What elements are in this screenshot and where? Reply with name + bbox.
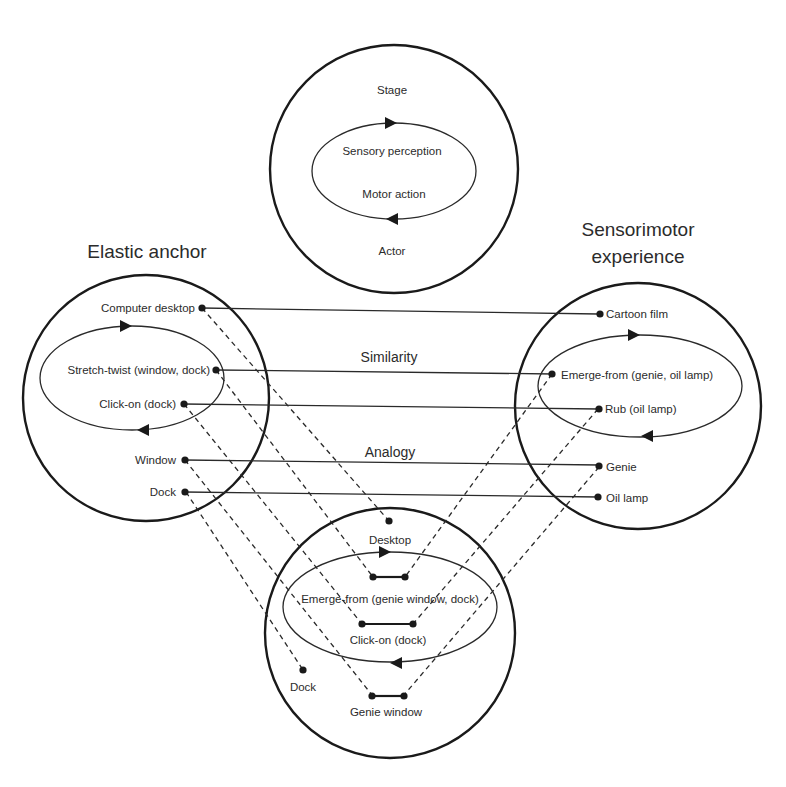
sensory-perception-label: Sensory perception (342, 145, 441, 157)
dash-dock-dock (186, 492, 303, 670)
dot-desktop (385, 517, 392, 524)
stretch-twist-label: Stretch-twist (window, dock) (67, 364, 210, 376)
bottom-circle-group: Desktop Emerge-from (genie window, dock)… (265, 508, 515, 758)
dot-click-on-right (409, 620, 416, 627)
dot-window (181, 456, 188, 463)
dot-genie-window-right (400, 692, 407, 699)
dot-cartoon-film (596, 310, 603, 317)
dot-emerge-from-genie (548, 370, 555, 377)
click-on-dock-blend-label: Click-on (dock) (350, 634, 427, 646)
dot-dock-blend (299, 666, 306, 673)
dot-click-on-left (358, 620, 365, 627)
genie-window-label: Genie window (350, 706, 423, 718)
dash-stretch-twist-emerge-from (216, 370, 373, 577)
line-window-genie (185, 460, 599, 465)
right-cycle-arrow-left-icon (641, 430, 653, 442)
rub-oil-lamp-label: Rub (oil lamp) (605, 403, 677, 415)
motor-action-label: Motor action (362, 188, 425, 200)
elastic-anchor-title: Elastic anchor (87, 241, 207, 262)
genie-label: Genie (606, 461, 637, 473)
dot-genie (595, 462, 602, 469)
similarity-label: Similarity (361, 349, 418, 365)
oil-lamp-label: Oil lamp (606, 492, 648, 504)
dash-emerge-from-emerge-from (405, 374, 552, 577)
dot-stretch-twist (212, 366, 219, 373)
left-cycle-arrow-right-icon (120, 320, 132, 332)
click-on-label: Click-on (dock) (99, 398, 176, 410)
dot-emerge-from-right (401, 573, 408, 580)
dot-computer-desktop (198, 304, 205, 311)
stage-label: Stage (377, 84, 407, 96)
top-cycle-arrow-left-icon (386, 213, 398, 225)
dot-oil-lamp (594, 493, 601, 500)
left-circle-group: Elastic anchor Computer desktop Stretch-… (23, 241, 269, 521)
dash-rub-click-on (413, 409, 598, 624)
dot-rub (595, 405, 602, 412)
emerge-from-genie-window-label: Emerge-from (genie window, dock) (301, 593, 479, 605)
dash-genie-genie-window (404, 467, 599, 695)
dot-emerge-from-left (369, 573, 376, 580)
sensorimotor-title-line2: experience (592, 246, 685, 267)
dock-blend-label: Dock (290, 681, 316, 693)
top-circle-group: Stage Sensory perception Motor action Ac… (270, 45, 518, 293)
computer-desktop-label: Computer desktop (101, 302, 195, 314)
line-dock-oil-lamp (185, 492, 598, 497)
dock-label: Dock (150, 486, 176, 498)
dot-dock (181, 488, 188, 495)
top-cycle-arrow-right-icon (385, 117, 397, 129)
line-computer-desktop-cartoon-film (202, 308, 598, 314)
sensorimotor-title-line1: Sensorimotor (582, 219, 696, 240)
top-cycle-ellipse (312, 123, 476, 219)
line-click-on-rub (184, 404, 598, 409)
bottom-cycle-arrow-right-icon (379, 546, 391, 558)
analogy-label: Analogy (365, 444, 416, 460)
cartoon-film-label: Cartoon film (606, 308, 668, 320)
dot-click-on (180, 400, 187, 407)
desktop-label: Desktop (369, 534, 411, 546)
bottom-cycle-arrow-left-icon (390, 657, 402, 669)
left-cycle-ellipse (40, 326, 224, 430)
right-cycle-arrow-right-icon (628, 329, 640, 341)
actor-label: Actor (379, 245, 406, 257)
left-cycle-arrow-left-icon (137, 424, 149, 436)
emerge-from-genie-label: Emerge-from (genie, oil lamp) (561, 369, 713, 381)
right-cycle-ellipse (538, 335, 742, 437)
conceptual-blend-diagram: Stage Sensory perception Motor action Ac… (0, 0, 786, 787)
window-label: Window (135, 454, 177, 466)
dot-genie-window-left (368, 692, 375, 699)
